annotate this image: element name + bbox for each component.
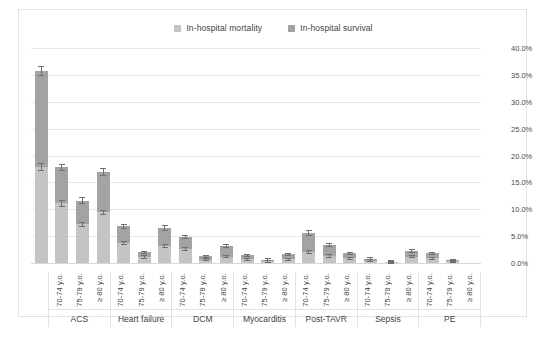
bar-slot (442, 48, 463, 263)
bar-group (401, 48, 463, 263)
error-bar-mortality (306, 250, 312, 254)
bar-group (93, 48, 155, 263)
y-axis-tick-label: 20.0% (511, 151, 532, 160)
bar-slot (113, 48, 134, 263)
x-axis-group: 70-74 y.o.75-79 y.o.≥ 80 y.o.Heart failu… (110, 272, 173, 327)
error-bar-mortality (182, 247, 188, 250)
x-axis-group: 70-74 y.o.75-79 y.o.≥ 80 y.o.Myocarditis (233, 272, 296, 327)
x-axis-tick: 75-79 y.o. (378, 272, 398, 309)
x-axis-tick: ≥ 80 y.o. (398, 272, 418, 309)
x-axis-group: 70-74 y.o.75-79 y.o.≥ 80 y.o.Sepsis (357, 272, 420, 327)
x-axis-tick: 75-79 y.o. (69, 272, 89, 309)
x-axis-tick: 75-79 y.o. (440, 272, 460, 309)
y-axis-tick-label: 15.0% (511, 178, 532, 187)
x-axis-tick: 70-74 y.o. (419, 272, 439, 309)
error-bar-survival (409, 249, 415, 253)
x-axis-group-label: Heart failure (111, 309, 172, 327)
bar-slot (360, 48, 381, 263)
x-axis-tick: ≥ 80 y.o. (213, 272, 233, 309)
bar-slot (31, 48, 52, 263)
bar-slot (237, 48, 258, 263)
bar-slot (257, 48, 278, 263)
error-bar-survival (285, 253, 291, 256)
legend-swatch-mortality (174, 25, 181, 32)
error-bar-survival (244, 254, 250, 257)
error-bar-survival (141, 251, 147, 254)
error-bar-survival (429, 252, 435, 255)
error-bar-survival (59, 164, 65, 172)
x-axis-tick: 70-74 y.o. (111, 272, 131, 309)
error-bar-mortality (450, 260, 456, 263)
bar-slot (422, 48, 443, 263)
error-bar-mortality (326, 254, 332, 257)
error-bar-survival (223, 244, 229, 248)
error-bar-survival (121, 224, 127, 229)
legend-item-mortality[interactable]: In-hospital mortality (174, 23, 262, 33)
x-axis-tick: 75-79 y.o. (316, 272, 336, 309)
x-axis: 70-74 y.o.75-79 y.o.≥ 80 y.o.ACS70-74 y.… (49, 272, 481, 327)
x-axis-group-label: Post-TAVR (296, 309, 357, 327)
y-axis-tick-label: 0.0% (511, 259, 528, 268)
bar-group (31, 48, 93, 263)
error-bar-mortality (79, 222, 85, 227)
bar-slot (134, 48, 155, 263)
legend-label-mortality: In-hospital mortality (186, 23, 262, 33)
x-axis-group-label: DCM (172, 309, 233, 327)
x-axis-group: 70-74 y.o.75-79 y.o.≥ 80 y.o.DCM (171, 272, 234, 327)
error-bar-mortality (59, 200, 65, 206)
error-bar-mortality (429, 257, 435, 260)
error-bar-mortality (121, 241, 127, 245)
error-bar-survival (326, 243, 332, 247)
x-axis-group-label: Sepsis (358, 309, 419, 327)
error-bar-survival (38, 66, 44, 76)
bar-mortality[interactable] (35, 167, 48, 263)
error-bar-survival (100, 168, 106, 176)
chart-frame: In-hospital mortality In-hospital surviv… (18, 9, 527, 317)
error-bar-mortality (409, 255, 415, 258)
legend-item-survival[interactable]: In-hospital survival (288, 23, 372, 33)
bar-mortality[interactable] (158, 246, 171, 263)
bar-slot (196, 48, 217, 263)
x-axis-tick: 70-74 y.o. (49, 272, 69, 309)
x-axis-tick: ≥ 80 y.o. (89, 272, 109, 309)
x-axis-tick: ≥ 80 y.o. (460, 272, 480, 309)
y-axis-tick-label: 40.0% (511, 44, 532, 53)
chart-legend: In-hospital mortality In-hospital surviv… (19, 23, 528, 33)
bar-slot (401, 48, 422, 263)
x-axis-tick: 70-74 y.o. (358, 272, 378, 309)
bar-slot (72, 48, 93, 263)
x-axis-tick: 70-74 y.o. (234, 272, 254, 309)
x-axis-tick: 70-74 y.o. (296, 272, 316, 309)
error-bar-mortality (388, 261, 394, 264)
bar-group (216, 48, 278, 263)
error-bar-survival (79, 197, 85, 203)
error-bar-survival (306, 230, 312, 235)
error-bar-survival (203, 255, 209, 258)
x-axis-group: 70-74 y.o.75-79 y.o.≥ 80 y.o.Post-TAVR (295, 272, 358, 327)
bar-group (154, 48, 216, 263)
error-bar-mortality (285, 258, 291, 261)
bar-slot (381, 48, 402, 263)
bar-group (278, 48, 340, 263)
error-bar-mortality (347, 257, 353, 260)
error-bar-mortality (141, 255, 147, 258)
legend-label-survival: In-hospital survival (300, 23, 372, 33)
bar-mortality[interactable] (76, 224, 89, 263)
x-axis-group: 70-74 y.o.75-79 y.o.≥ 80 y.o.PE (418, 272, 481, 327)
error-bar-mortality (223, 255, 229, 258)
x-axis-group: 70-74 y.o.75-79 y.o.≥ 80 y.o.ACS (48, 272, 111, 327)
x-axis-tick: ≥ 80 y.o. (275, 272, 295, 309)
bar-slot (278, 48, 299, 263)
bar-mortality[interactable] (97, 212, 110, 263)
gridline (31, 263, 481, 264)
bar-slot (298, 48, 319, 263)
bar-mortality[interactable] (179, 249, 192, 263)
bar-mortality[interactable] (55, 203, 68, 263)
bar-mortality[interactable] (117, 243, 130, 263)
x-axis-tick: 70-74 y.o. (172, 272, 192, 309)
y-axis-tick-label: 25.0% (511, 124, 532, 133)
error-bar-survival (347, 252, 353, 255)
x-axis-tick: ≥ 80 y.o. (151, 272, 171, 309)
legend-swatch-survival (288, 25, 295, 32)
bar-slot (319, 48, 340, 263)
